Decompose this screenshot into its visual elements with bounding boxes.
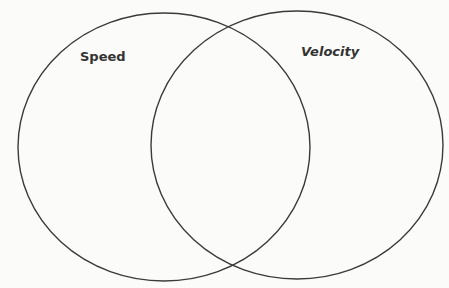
velocity-circle [151, 11, 443, 279]
speed-circle [18, 13, 310, 281]
speed-label: Speed [80, 49, 126, 64]
velocity-label: Velocity [301, 44, 360, 59]
venn-diagram: Speed Velocity [0, 0, 449, 288]
